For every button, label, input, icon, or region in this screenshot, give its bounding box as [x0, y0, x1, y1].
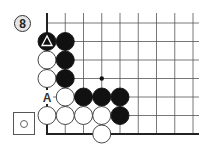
- black-stone[interactable]: [56, 51, 74, 69]
- white-stone[interactable]: [38, 70, 56, 88]
- white-stone[interactable]: [93, 107, 111, 125]
- point-label-a: A: [43, 91, 52, 105]
- white-stone[interactable]: [56, 107, 74, 125]
- white-stone[interactable]: [56, 88, 74, 106]
- black-stone[interactable]: [111, 107, 129, 125]
- black-stone[interactable]: [56, 70, 74, 88]
- black-stone[interactable]: [56, 33, 74, 51]
- black-stone[interactable]: [111, 88, 129, 106]
- black-stone[interactable]: [93, 88, 111, 106]
- hoshi-point: [100, 76, 104, 80]
- white-stone[interactable]: [75, 107, 93, 125]
- white-stone[interactable]: [38, 107, 56, 125]
- white-stone[interactable]: [93, 125, 111, 143]
- go-board[interactable]: A: [0, 0, 209, 148]
- black-stone[interactable]: [75, 88, 93, 106]
- white-stone[interactable]: [38, 51, 56, 69]
